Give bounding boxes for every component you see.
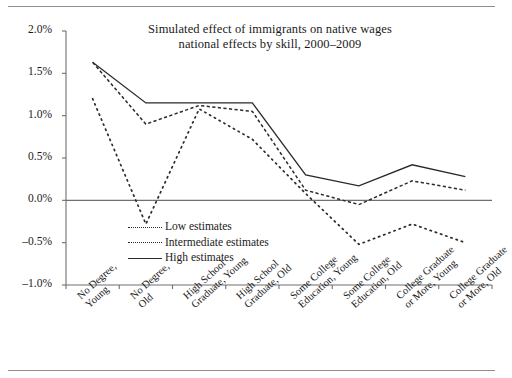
y-axis-tick-label: 0.0%	[8, 192, 52, 204]
legend-key-solid-icon	[128, 253, 162, 263]
legend-key-dotted-icon	[128, 222, 162, 232]
y-axis-tick-label: 1.0%	[8, 108, 52, 120]
y-axis-tick-label: 2.0%	[8, 23, 52, 35]
chart-legend: Low estimates Intermediate estimates Hig…	[128, 219, 269, 266]
y-axis-tick-label: –1.0%	[8, 277, 52, 289]
legend-label-intermediate: Intermediate estimates	[165, 235, 269, 251]
y-axis-tick-label: –0.5%	[8, 235, 52, 247]
axes-group	[62, 31, 492, 289]
legend-item-low: Low estimates	[128, 219, 269, 235]
legend-item-high: High estimates	[128, 250, 269, 266]
legend-label-low: Low estimates	[165, 219, 232, 235]
series-line-dashed	[93, 62, 466, 204]
y-axis-tick-label: 1.5%	[8, 65, 52, 77]
legend-item-intermediate: Intermediate estimates	[128, 235, 269, 251]
legend-label-high: High estimates	[165, 250, 234, 266]
series-group	[93, 62, 466, 244]
y-axis-tick-label: 0.5%	[8, 150, 52, 162]
legend-key-dashed-icon	[128, 237, 162, 247]
